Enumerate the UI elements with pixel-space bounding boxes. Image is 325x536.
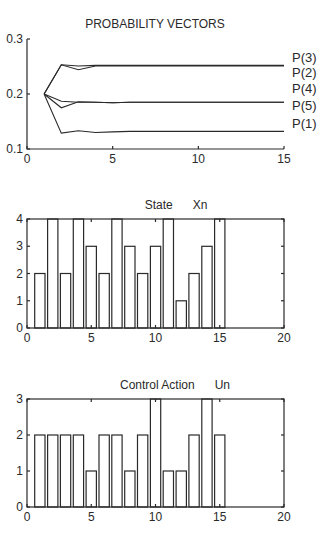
bar xyxy=(150,399,160,507)
x-tick-label: 10 xyxy=(192,152,206,166)
bar xyxy=(112,435,122,507)
bar xyxy=(202,399,212,507)
x-tick-label: 15 xyxy=(213,331,227,345)
y-tick-label: 0.2 xyxy=(6,87,23,101)
x-tick-label: 5 xyxy=(88,331,95,345)
x-tick-label: 20 xyxy=(277,510,291,524)
bar xyxy=(189,274,199,329)
probability-vectors-chart: PROBABILITY VECTORS 0510150.10.20.3 P(3)… xyxy=(6,17,316,166)
bar xyxy=(150,246,160,328)
y-tick-label: 0 xyxy=(16,500,23,514)
bar xyxy=(125,471,135,507)
bar xyxy=(163,471,173,507)
bar xyxy=(215,219,225,328)
chart-title: State Xn xyxy=(145,198,208,212)
legend: P(3)P(2)P(4)P(5)P(1) xyxy=(292,50,317,131)
bar xyxy=(35,274,45,329)
legend-label: P(2) xyxy=(292,65,317,80)
bars xyxy=(35,219,225,328)
bar xyxy=(99,274,109,329)
x-tick-label: 5 xyxy=(88,510,95,524)
legend-label: P(4) xyxy=(292,81,317,96)
figure: PROBABILITY VECTORS 0510150.10.20.3 P(3)… xyxy=(0,0,325,536)
y-tick-label: 0.3 xyxy=(6,32,23,46)
state-chart: State Xn 0510152001234 xyxy=(16,198,291,345)
bar xyxy=(48,435,58,507)
y-tick-label: 0.1 xyxy=(6,142,23,156)
legend-label: P(3) xyxy=(292,50,317,65)
chart-title: PROBABILITY VECTORS xyxy=(85,17,225,31)
bar xyxy=(73,435,83,507)
chart-title: Control Action Un xyxy=(120,378,230,392)
x-tick-label: 0 xyxy=(24,331,31,345)
x-tick-label: 10 xyxy=(149,510,163,524)
bar xyxy=(86,246,96,328)
bar xyxy=(189,435,199,507)
bar xyxy=(35,435,45,507)
chart-canvas: PROBABILITY VECTORS 0510150.10.20.3 P(3)… xyxy=(0,0,325,536)
axes: 0510150.10.20.3 xyxy=(6,32,291,166)
control-action-chart: Control Action Un 051015200123 xyxy=(16,378,291,524)
series-line xyxy=(44,65,284,94)
legend-label: P(5) xyxy=(292,98,317,113)
bar xyxy=(73,219,83,328)
y-tick-label: 1 xyxy=(16,464,23,478)
y-tick-label: 2 xyxy=(16,428,23,442)
bar xyxy=(112,219,122,328)
bars xyxy=(35,399,225,507)
x-tick-label: 20 xyxy=(277,331,291,345)
bar xyxy=(176,471,186,507)
bar xyxy=(215,435,225,507)
bar xyxy=(60,435,70,507)
y-tick-label: 2 xyxy=(16,267,23,281)
bar xyxy=(202,246,212,328)
line-series xyxy=(44,65,284,133)
x-tick-label: 10 xyxy=(149,331,163,345)
y-tick-label: 1 xyxy=(16,294,23,308)
x-tick-label: 15 xyxy=(213,510,227,524)
bar xyxy=(86,471,96,507)
y-tick-label: 3 xyxy=(16,392,23,406)
bar xyxy=(176,301,186,328)
bar xyxy=(99,435,109,507)
x-tick-label: 5 xyxy=(109,152,116,166)
legend-label: P(1) xyxy=(292,116,317,131)
bar xyxy=(138,435,148,507)
bar xyxy=(60,274,70,329)
bar xyxy=(138,274,148,329)
x-tick-label: 0 xyxy=(24,152,31,166)
series-line xyxy=(44,94,284,133)
x-tick-label: 15 xyxy=(277,152,291,166)
bar xyxy=(125,246,135,328)
series-line xyxy=(44,94,284,108)
bar xyxy=(163,219,173,328)
y-tick-label: 3 xyxy=(16,239,23,253)
x-tick-label: 0 xyxy=(24,510,31,524)
y-tick-label: 0 xyxy=(16,321,23,335)
bar xyxy=(48,219,58,328)
y-tick-label: 4 xyxy=(16,212,23,226)
